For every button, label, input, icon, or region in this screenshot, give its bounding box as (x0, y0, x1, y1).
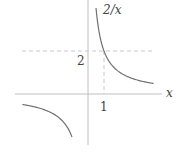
chart-canvas (0, 0, 185, 153)
y-tick-label-2: 2 (77, 55, 85, 67)
curve-negative-branch (22, 104, 72, 137)
x-axis-label: x (166, 87, 173, 99)
curve-label: 2/x (103, 4, 121, 16)
curve-positive-branch (96, 8, 154, 84)
x-tick-label-1: 1 (100, 101, 108, 113)
